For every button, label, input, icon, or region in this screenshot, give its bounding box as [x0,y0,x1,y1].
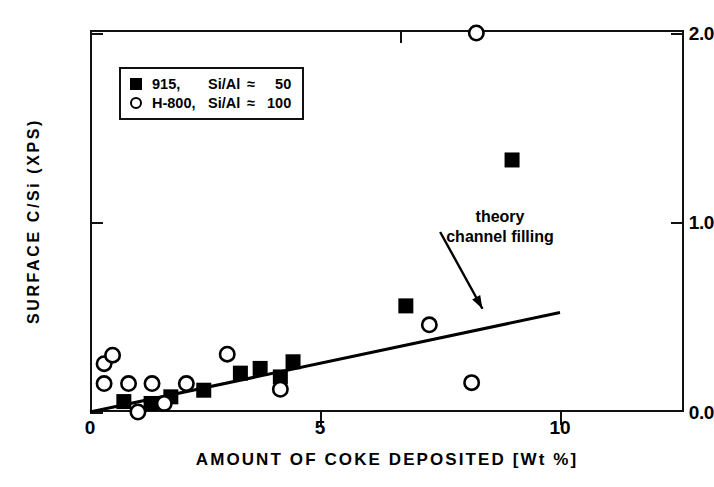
data-point-1-2 [97,376,111,390]
data-point-1-3 [121,376,135,390]
data-point-1-10 [422,318,436,332]
data-point-1-11 [464,375,478,389]
data-point-1-1 [105,348,119,362]
data-point-0-5 [253,361,268,376]
arrow-head [472,295,482,309]
data-point-1-4 [145,376,159,390]
data-point-0-0 [116,394,131,409]
annotation-arrow [440,232,482,309]
data-point-0-3 [196,383,211,398]
data-point-1-6 [131,405,145,419]
data-point-1-5 [179,376,193,390]
data-point-1-8 [220,347,234,361]
data-point-1-9 [273,382,287,396]
scatter-plot-figure: 0.0 1.0 2.0 0 5 10 AMOUNT OF COKE DEPOSI… [0,0,714,487]
data-point-0-9 [505,152,520,167]
data-layer [0,0,714,487]
data-point-0-8 [398,298,413,313]
data-point-1-7 [157,396,171,410]
data-point-0-4 [233,366,248,381]
data-markers [97,26,520,419]
data-point-1-12 [469,26,483,40]
arrow-shaft [440,232,482,309]
data-point-0-6 [286,354,301,369]
